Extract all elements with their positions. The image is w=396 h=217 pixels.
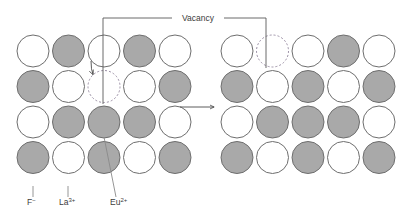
ion-site-open: [257, 71, 289, 103]
ion-site-open: [221, 35, 253, 67]
legend-item-lanthanum: La3+: [59, 186, 76, 207]
ion-site-filled: [53, 106, 85, 138]
ion-site-filled: [328, 35, 360, 67]
legend-label-fluoride: F−: [27, 197, 36, 207]
lattice-vacancy-diagram: Vacancy F−La3+Eu2+: [0, 0, 396, 217]
ion-hop-arrow: [91, 61, 93, 75]
ion-site-filled: [363, 71, 395, 103]
ion-site-filled: [17, 71, 49, 103]
legend-item-fluoride: F−: [27, 186, 36, 207]
ion-site-open: [328, 71, 360, 103]
ion-site-open: [363, 106, 395, 138]
vacancy-site: [257, 35, 289, 67]
lattice-layer: [17, 35, 395, 174]
ion-site-open: [257, 142, 289, 174]
ion-site-open: [159, 106, 191, 138]
ion-site-filled: [124, 106, 156, 138]
ion-site-open: [221, 106, 253, 138]
legend-label-europium: Eu2+: [110, 197, 128, 207]
ion-site-filled: [257, 106, 289, 138]
ion-site-open: [17, 106, 49, 138]
ion-site-filled: [363, 142, 395, 174]
ion-site-open: [53, 71, 85, 103]
ion-site-filled: [88, 106, 120, 138]
ion-site-filled: [17, 142, 49, 174]
ion-site-filled: [159, 142, 191, 174]
ion-site-filled: [221, 142, 253, 174]
ion-site-open: [328, 142, 360, 174]
ion-site-filled: [221, 71, 253, 103]
diagram-canvas: Vacancy F−La3+Eu2+: [0, 0, 396, 217]
ion-site-filled: [292, 142, 324, 174]
vacancy-site: [88, 71, 120, 103]
ion-site-open: [159, 35, 191, 67]
vacancy-label: Vacancy: [182, 13, 215, 23]
ion-site-open: [124, 142, 156, 174]
legend-label-lanthanum: La3+: [59, 197, 76, 207]
ion-site-open: [124, 71, 156, 103]
ion-site-open: [17, 35, 49, 67]
ion-site-open: [363, 35, 395, 67]
ion-site-filled: [292, 71, 324, 103]
ion-site-filled: [88, 142, 120, 174]
left-lattice: [17, 35, 191, 174]
ion-site-filled: [53, 35, 85, 67]
ion-site-open: [292, 35, 324, 67]
ion-site-filled: [159, 71, 191, 103]
ion-site-filled: [292, 106, 324, 138]
right-lattice: [221, 35, 395, 174]
ion-site-filled: [328, 106, 360, 138]
ion-site-filled: [124, 35, 156, 67]
ion-site-open: [53, 142, 85, 174]
ion-site-open: [88, 35, 120, 67]
